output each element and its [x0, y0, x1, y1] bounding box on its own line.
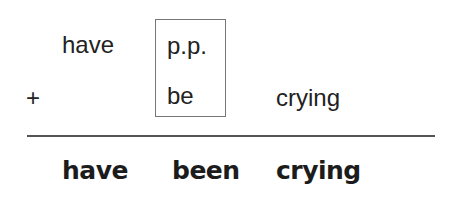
result-crying: crying — [276, 158, 361, 183]
word-crying: crying — [276, 86, 340, 110]
divider-rule — [27, 135, 435, 137]
word-have: have — [62, 33, 114, 57]
word-pp: p.p. — [167, 34, 207, 58]
result-have: have — [62, 158, 128, 183]
plus-sign: + — [26, 86, 40, 110]
result-been: been — [172, 158, 240, 183]
word-be: be — [167, 84, 194, 108]
